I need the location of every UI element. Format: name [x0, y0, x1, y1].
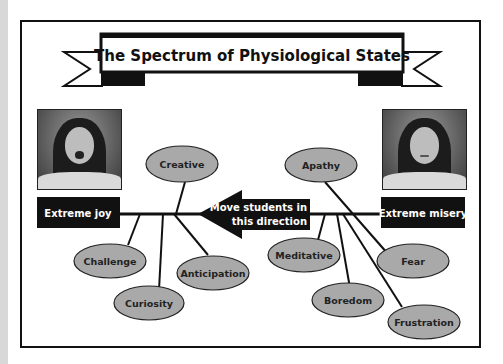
svg-text:Boredom: Boredom: [324, 295, 372, 306]
state-meditative: Meditative: [268, 238, 340, 272]
state-anticipation: Anticipation: [177, 256, 249, 290]
svg-text:Creative: Creative: [160, 159, 205, 170]
svg-text:Fear: Fear: [401, 256, 425, 267]
extreme-joy-label: Extreme joy: [37, 197, 120, 228]
svg-text:Extreme joy: Extreme joy: [44, 208, 112, 219]
state-boredom: Boredom: [312, 283, 384, 317]
svg-text:Challenge: Challenge: [83, 256, 136, 267]
spectrum-diagram: The Spectrum of Physiological States Mov…: [0, 0, 503, 364]
svg-text:Anticipation: Anticipation: [180, 268, 245, 279]
arrow-line1: Move students in: [210, 202, 307, 213]
state-curiosity: Curiosity: [114, 286, 184, 320]
state-creative: Creative: [146, 146, 218, 182]
title-text: The Spectrum of Physiological States: [94, 47, 410, 65]
svg-text:Frustration: Frustration: [394, 317, 454, 328]
title-banner: The Spectrum of Physiological States: [64, 34, 440, 86]
state-fear: Fear: [377, 244, 449, 278]
state-apathy: Apathy: [285, 148, 357, 182]
svg-text:Meditative: Meditative: [275, 250, 332, 261]
state-frustration: Frustration: [388, 305, 460, 339]
arrow-line2: this direction: [232, 216, 307, 227]
extreme-misery-label: Extreme misery: [379, 197, 468, 228]
direction-arrow: Move students in this direction: [198, 190, 310, 239]
svg-text:Extreme misery: Extreme misery: [379, 208, 468, 219]
state-challenge: Challenge: [74, 244, 146, 278]
svg-text:Curiosity: Curiosity: [125, 298, 174, 309]
svg-text:Apathy: Apathy: [302, 160, 341, 171]
